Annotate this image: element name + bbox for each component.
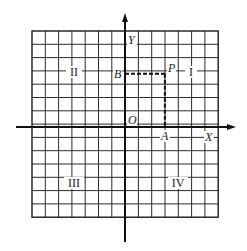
quadrant-i-label: I [189,65,193,79]
x-axis-arrow-icon [227,124,236,130]
origin-label: O [128,113,137,127]
x-axis-label: X [204,130,213,144]
point-p-label: P [167,61,176,75]
point-a-label: A [160,129,169,143]
coordinate-plane-diagram: I II III IV Y X O P A B [0,0,247,251]
quadrant-ii-label: II [70,65,78,79]
y-axis-arrow-icon [122,13,128,22]
quadrant-iii-label: III [68,176,80,190]
point-b-label: B [114,67,122,81]
quadrant-iv-label: IV [172,176,185,190]
